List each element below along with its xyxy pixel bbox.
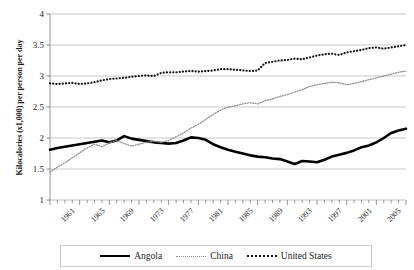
legend-item-china[interactable]: China bbox=[176, 251, 233, 261]
x-tick-label: 1965 bbox=[89, 207, 106, 224]
y-axis-title: Kilocalories (x1,000) per person per day bbox=[15, 15, 24, 201]
x-tick-label: 1989 bbox=[267, 207, 284, 224]
series-line-angola bbox=[50, 129, 406, 164]
plot-svg bbox=[50, 14, 406, 200]
y-tick-label: 1 bbox=[24, 196, 44, 205]
legend-item-angola[interactable]: Angola bbox=[100, 251, 162, 261]
coarse-dotted-line-marker-icon bbox=[247, 252, 277, 261]
x-tick-label: 2005 bbox=[386, 207, 403, 224]
x-axis-ticks bbox=[50, 200, 406, 205]
x-tick-label: 1981 bbox=[208, 207, 225, 224]
x-tick-label: 1985 bbox=[238, 207, 255, 224]
legend-label: China bbox=[210, 251, 233, 261]
plot-area: 11.522.533.54 19611965196919731977198119… bbox=[50, 14, 406, 200]
chart-container: Kilocalories (x1,000) per person per day… bbox=[0, 0, 414, 270]
x-tick-label: 2001 bbox=[356, 207, 373, 224]
legend-label: Angola bbox=[134, 251, 162, 261]
series-layer bbox=[50, 45, 406, 172]
y-tick-label: 3 bbox=[24, 72, 44, 81]
y-tick-label: 1.5 bbox=[24, 165, 44, 174]
x-tick-label: 1997 bbox=[327, 207, 344, 224]
y-tick-label: 4 bbox=[24, 10, 44, 19]
x-tick-label: 1977 bbox=[178, 207, 195, 224]
chart-legend: Angola China United States bbox=[60, 245, 372, 267]
legend-item-united-states[interactable]: United States bbox=[247, 251, 332, 261]
series-line-china bbox=[50, 71, 406, 172]
x-tick-label: 1969 bbox=[119, 207, 136, 224]
y-tick-label: 2.5 bbox=[24, 103, 44, 112]
solid-line-marker-icon bbox=[100, 252, 130, 261]
series-line-united-states bbox=[50, 45, 406, 84]
y-tick-label: 2 bbox=[24, 134, 44, 143]
y-tick-label: 3.5 bbox=[24, 41, 44, 50]
x-tick-label: 1973 bbox=[149, 207, 166, 224]
fine-dotted-line-marker-icon bbox=[176, 252, 206, 261]
x-tick-label: 1993 bbox=[297, 207, 314, 224]
legend-label: United States bbox=[281, 251, 332, 261]
x-tick-label: 1961 bbox=[60, 207, 77, 224]
